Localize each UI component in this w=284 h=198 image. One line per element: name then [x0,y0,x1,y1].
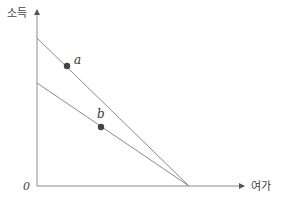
income-leisure-diagram: 소득 여가 0 a b [0,0,284,198]
y-axis-label: 소득 [7,7,27,20]
point-a-label: a [74,53,81,67]
lower-budget-line [37,83,189,186]
point-b [98,124,104,130]
origin-label: 0 [23,180,30,193]
upper-budget-line [37,38,189,186]
point-a [64,63,70,69]
x-axis-label: 여가 [251,180,271,193]
point-b-label: b [97,107,105,121]
